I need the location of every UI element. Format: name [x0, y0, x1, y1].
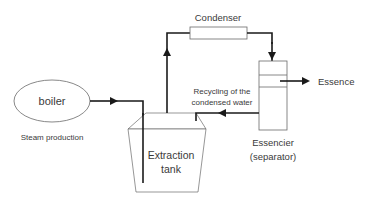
condenser-label: Condenser	[195, 12, 241, 23]
recycle-label-line2: condensed water	[192, 98, 253, 107]
separator-label-line1: Essencier	[252, 137, 294, 148]
essence-label: Essence	[318, 76, 354, 87]
vapor-pipe	[167, 33, 190, 113]
process-diagram: boiler Steam production Extraction tank …	[0, 0, 365, 207]
boiler-caption: Steam production	[21, 133, 84, 142]
recycle-pipe	[196, 113, 259, 121]
tank-label-line1: Extraction	[148, 149, 195, 161]
boiler-label: boiler	[39, 95, 66, 107]
tank-label-line2: tank	[161, 163, 182, 175]
condenser-node	[190, 27, 247, 39]
recycle-label-line1: Recycling of the	[194, 87, 251, 96]
separator-label-line2: (separator)	[250, 151, 296, 162]
separator-node	[259, 61, 287, 130]
distillate-pipe	[247, 33, 272, 62]
